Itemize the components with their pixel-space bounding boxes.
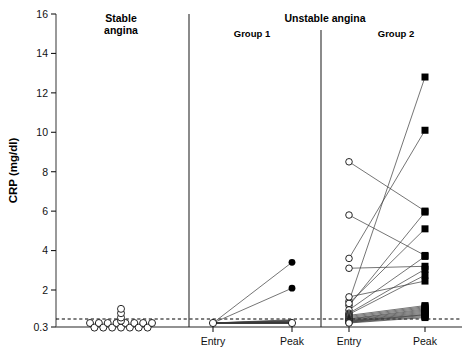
group2-peak-marker [422,127,429,134]
y-tick-label: 16 [36,8,48,20]
pair-connector [349,130,425,258]
group1-title: Group 1 [234,28,271,39]
x-label-group1-entry: Entry [201,335,226,347]
y-tick-label: 6 [42,205,48,217]
group2-entry-marker [346,300,353,307]
y-tick-label: 4 [42,244,48,256]
group2-peak-marker [422,278,429,285]
group2-entry-marker [346,212,353,219]
y-axis-title: CRP (mg/dl) [7,138,19,204]
group1-entry-marker [209,319,216,326]
group1-peak-marker [288,319,295,326]
group1-peak-marker [289,259,296,266]
group2-entry-marker [346,159,353,166]
group2-entry-marker [346,255,353,262]
pair-connector [213,262,292,323]
stable-angina-title-line2: angina [104,24,138,36]
y-tick-label: 14 [36,47,48,59]
x-label-group1-peak: Peak [280,335,305,347]
stable-angina-point [118,305,125,312]
stable-angina-title-line1: Stable [105,12,137,24]
crp-scatter-figure: 0.3246810121416CRP (mg/dl)StableanginaUn… [0,0,465,360]
group2-entry-marker [346,294,353,301]
pair-connector [213,288,292,323]
group2-peak-marker [422,209,429,216]
group1-peak-marker [289,285,296,292]
stable-angina-point [149,320,156,327]
y-tick-label: 0.3 [33,321,48,333]
group2-peak-marker [422,253,429,260]
group2-peak-marker [422,74,429,81]
pair-connector [349,162,425,211]
y-tick-label: 8 [42,166,48,178]
plot-canvas: 0.3246810121416CRP (mg/dl)StableanginaUn… [0,0,465,360]
y-tick-label: 2 [42,284,48,296]
pair-connector [349,215,425,255]
x-label-group2-entry: Entry [337,335,362,347]
group2-entry-marker [346,320,353,327]
group2-entry-marker [346,265,353,272]
group2-peak-marker [422,314,429,321]
x-label-group2-peak: Peak [413,335,438,347]
pair-connector [349,229,425,304]
y-tick-label: 12 [36,87,48,99]
group2-peak-marker [422,225,429,232]
group2-title: Group 2 [378,28,414,39]
unstable-angina-title: Unstable angina [284,12,365,24]
y-tick-label: 10 [36,126,48,138]
